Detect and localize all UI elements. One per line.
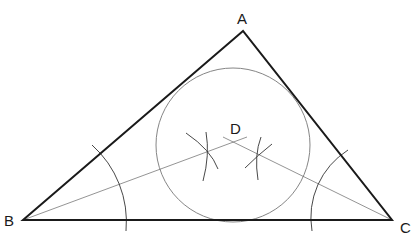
- triangle-abc: [23, 31, 392, 220]
- incircle-construction-diagram: A B C D: [0, 0, 420, 234]
- intersection-mark-left-a: [186, 133, 218, 169]
- incircle: [156, 68, 310, 222]
- incenter-label-d: D: [230, 120, 241, 137]
- intersection-mark-left-b: [203, 132, 207, 181]
- bisector-from-c: [223, 137, 392, 220]
- vertex-label-b: B: [4, 212, 14, 229]
- construction-arc-c: [311, 150, 348, 231]
- intersection-mark-right-a: [245, 144, 272, 168]
- intersection-mark-right-b: [257, 137, 261, 180]
- bisector-from-b: [23, 137, 247, 220]
- vertex-label-a: A: [237, 10, 247, 27]
- vertex-label-c: C: [400, 219, 411, 234]
